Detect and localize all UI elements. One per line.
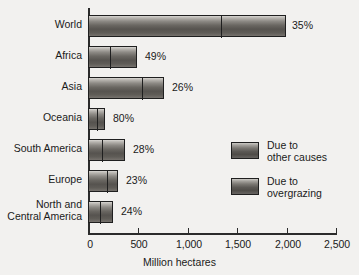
x-axis-line: [88, 233, 337, 235]
x-tick-label-1500: 1,500: [225, 238, 251, 250]
bar-europe: [88, 170, 118, 192]
x-tick-label-2500: 2,500: [324, 238, 350, 250]
bar-segment-divider: [97, 109, 98, 131]
bar-value-label-europe: 23%: [126, 174, 147, 186]
bar-oceania: [88, 108, 105, 130]
category-label-oceania: Oceania: [43, 111, 82, 123]
bar-segment-divider: [110, 47, 111, 69]
bar-value-label-north-and-central-america: 24%: [121, 205, 142, 217]
bar-segment-divider: [107, 171, 108, 193]
x-tick-2500: [336, 228, 337, 234]
bar-asia: [88, 77, 164, 99]
category-label-africa: Africa: [55, 49, 82, 61]
bar-segment-divider: [102, 140, 103, 162]
bar-value-label-south-america: 28%: [133, 143, 154, 155]
x-tick-label-500: 500: [130, 238, 147, 250]
bar-north-and-central-america: [88, 201, 113, 223]
x-axis-title: Million hectares: [0, 256, 359, 268]
bar-value-label-oceania: 80%: [113, 112, 134, 124]
category-label-world: World: [55, 18, 82, 30]
bar-south-america: [88, 139, 125, 161]
bar-world: [88, 15, 286, 37]
x-tick-1500: [237, 228, 238, 234]
bar-segment-divider: [100, 202, 101, 224]
category-label-europe: Europe: [48, 173, 82, 185]
bar-value-label-africa: 49%: [145, 50, 166, 62]
x-tick-500: [138, 228, 139, 234]
bar-value-label-asia: 26%: [172, 81, 193, 93]
category-label-north-and-central-america: North and Central America: [7, 198, 82, 222]
legend-label-overgrazing: Due to overgrazing: [267, 175, 322, 199]
category-label-south-america: South America: [14, 142, 82, 154]
bar-africa: [88, 46, 137, 68]
x-tick-2000: [287, 228, 288, 234]
legend-swatch-icon: [231, 142, 259, 159]
x-tick-label-2000: 2,000: [275, 238, 301, 250]
bar-segment-divider: [142, 78, 143, 100]
x-tick-label-1000: 1,000: [176, 238, 202, 250]
category-label-asia: Asia: [62, 80, 82, 92]
x-tick-0: [89, 228, 90, 234]
bar-value-label-world: 35%: [292, 19, 313, 31]
x-tick-label-0: 0: [87, 238, 93, 250]
bar-segment-divider: [221, 16, 222, 38]
legend-swatch-icon: [231, 178, 259, 195]
chart-container: World Africa Asia Oceania South America …: [0, 0, 359, 275]
legend-label-other-causes: Due to other causes: [267, 139, 327, 163]
x-tick-1000: [188, 228, 189, 234]
